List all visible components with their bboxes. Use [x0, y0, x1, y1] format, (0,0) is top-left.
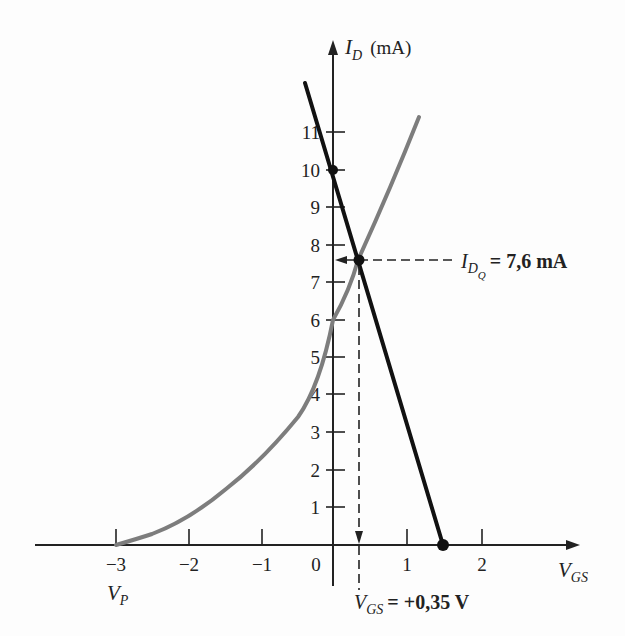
x-tick-label: 1 [402, 554, 412, 575]
x-tick-label: −3 [106, 554, 126, 575]
y-tick-label: 5 [311, 347, 321, 368]
y-tick-label: 6 [311, 310, 321, 331]
y-tick-labels: 1 2 3 4 5 6 7 8 9 10 11 [301, 122, 321, 518]
y-tick-label: 9 [311, 197, 321, 218]
vgs-arrow-icon [355, 531, 363, 544]
transfer-curve [116, 117, 419, 545]
y-tick-label: 10 [301, 160, 320, 181]
x-tick-label: −2 [179, 554, 199, 575]
y-tick-label: 3 [311, 422, 321, 443]
idq-arrow-icon [335, 256, 347, 264]
vp-label: VP [107, 581, 129, 608]
x-axis-label: VGS [558, 558, 588, 585]
x-tick-label: −1 [252, 554, 272, 575]
y-tick-label: 8 [311, 235, 321, 256]
y-tick-label: 7 [311, 272, 321, 293]
x-tick-label: 2 [477, 554, 487, 575]
y-tick-label: 2 [311, 460, 321, 481]
y-axis-label: ID(mA) [344, 35, 411, 63]
intercept-point-id [328, 165, 338, 175]
x-axis-arrow-icon [566, 540, 580, 550]
x-ticks [116, 529, 482, 545]
x-tick-labels: −3 −2 −1 0 1 2 [106, 554, 487, 575]
x-tick-label: 0 [311, 554, 321, 575]
y-tick-label: 1 [311, 497, 321, 518]
intercept-point-vgs [437, 539, 449, 551]
chart-svg: −3 −2 −1 0 1 2 1 2 3 4 5 6 7 8 9 10 11 I… [0, 0, 625, 636]
bias-line [305, 83, 443, 545]
chart-figure: −3 −2 −1 0 1 2 1 2 3 4 5 6 7 8 9 10 11 I… [0, 0, 625, 636]
q-point [354, 255, 365, 266]
y-axis-arrow-icon [328, 40, 338, 55]
idq-annotation: IDQ= 7,6 mA [460, 250, 568, 281]
vgs-annotation: VGS= +0,35 V [354, 591, 470, 617]
